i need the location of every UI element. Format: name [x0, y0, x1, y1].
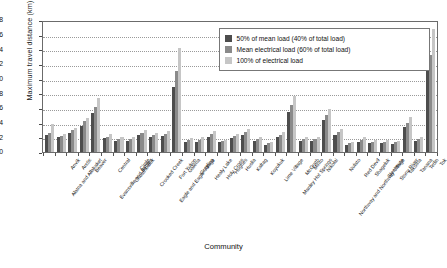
- x-axis-category-label: Evansville and Bettles: [118, 157, 153, 200]
- bar: [74, 128, 77, 152]
- x-axis-category-label: Kaltag: [255, 157, 269, 172]
- x-axis-category-label: Shageluk: [373, 157, 391, 177]
- x-axis-category-label: Red Devil: [362, 157, 380, 178]
- y-axis-tick-label: 16: [0, 32, 3, 39]
- y-axis-tick-mark: [39, 50, 42, 51]
- bar: [155, 133, 158, 152]
- bar: [86, 118, 89, 152]
- bar: [201, 137, 204, 152]
- x-axis-category-label: Huslia: [243, 157, 256, 172]
- legend-swatch-icon: [225, 57, 232, 64]
- bar: [178, 48, 181, 152]
- bar-group: [125, 22, 137, 152]
- y-axis-tick-mark: [39, 138, 42, 139]
- bar: [351, 142, 354, 152]
- bar-group: [148, 22, 160, 152]
- bar: [293, 96, 296, 152]
- x-axis-tick-mark: [310, 153, 311, 156]
- x-axis-tick-mark: [101, 153, 102, 156]
- x-axis-category-label: Koyukuk: [268, 157, 285, 176]
- x-axis-tick-mark: [228, 153, 229, 156]
- bar-group: [79, 22, 91, 152]
- bar: [120, 137, 123, 152]
- x-axis-category-label: Sleetmute: [386, 157, 405, 179]
- x-axis-tick-mark: [55, 153, 56, 156]
- x-axis-tick-mark: [275, 153, 276, 156]
- bar: [432, 29, 435, 152]
- x-axis-tick-mark: [113, 153, 114, 156]
- x-axis-tick-mark: [217, 153, 218, 156]
- bar: [63, 134, 66, 152]
- x-axis-category-label: Stony River: [398, 157, 419, 181]
- x-axis-category-label: Tok: [438, 157, 447, 167]
- y-axis-tick-label: 8: [0, 91, 3, 98]
- bar-group: [182, 22, 194, 152]
- x-axis-tick-mark: [124, 153, 125, 156]
- x-axis-tick-mark: [147, 153, 148, 156]
- x-axis-ticks: [42, 153, 438, 157]
- y-axis-tick-mark: [39, 94, 42, 95]
- bar: [397, 141, 400, 152]
- bar: [305, 137, 308, 152]
- x-axis-tick-mark: [425, 153, 426, 156]
- legend-swatch-icon: [225, 35, 232, 42]
- y-axis-tick-label: 14: [0, 47, 3, 54]
- bar: [420, 137, 423, 152]
- bar-group: [194, 22, 206, 152]
- x-axis-tick-mark: [66, 153, 67, 156]
- legend-item-label: 50% of mean load (40% of total load): [237, 35, 346, 42]
- x-axis-category-label: Manley Hot Springs: [301, 157, 333, 196]
- x-axis-category-label: Hughes: [233, 157, 249, 175]
- x-axis-tick-mark: [182, 153, 183, 156]
- y-axis-tick-mark: [39, 109, 42, 110]
- bar-chart: Maximum travel distance (km) 02468101214…: [0, 0, 447, 268]
- x-axis-category-label: Anvik: [69, 157, 81, 171]
- y-axis-tick-mark: [39, 36, 42, 37]
- bar-group: [90, 22, 102, 152]
- bar: [51, 124, 54, 152]
- x-axis-tick-mark: [437, 153, 438, 156]
- x-axis-category-label: Arctic: [80, 157, 93, 171]
- x-axis-category-label: Nulato: [348, 157, 362, 172]
- bar: [386, 140, 389, 152]
- x-axis-tick-mark: [298, 153, 299, 156]
- bar-group: [159, 22, 171, 152]
- x-axis-tick-mark: [414, 153, 415, 156]
- x-axis-tick-mark: [379, 153, 380, 156]
- bar-group: [136, 22, 148, 152]
- y-axis-tick-label: 2: [0, 135, 3, 142]
- x-axis-tick-mark: [367, 153, 368, 156]
- y-axis-tick-mark: [39, 21, 42, 22]
- y-axis-tick-label: 4: [0, 120, 3, 127]
- bar: [97, 98, 100, 152]
- x-axis-category-label: Eagle and Eagle Village: [177, 157, 215, 203]
- y-axis-tick-mark: [39, 65, 42, 66]
- x-axis-category-label: Northway and Northway Village: [358, 157, 406, 217]
- bar: [374, 140, 377, 152]
- bar-group: [102, 22, 114, 152]
- bar-group: [205, 22, 217, 152]
- y-axis-tick-label: 18: [0, 17, 3, 24]
- x-axis-category-label: Holy Cross: [224, 157, 244, 180]
- legend-item: Mean electrical load (60% of total load): [225, 44, 424, 55]
- y-axis-tick-label: 6: [0, 105, 3, 112]
- legend-item: 50% of mean load (40% of total load): [225, 33, 424, 44]
- bar: [167, 131, 170, 152]
- x-axis-tick-mark: [391, 153, 392, 156]
- x-axis-category-label: Galena: [186, 157, 201, 174]
- x-axis-tick-mark: [263, 153, 264, 156]
- x-axis-category-label: Tetlin: [428, 157, 440, 170]
- x-axis-category-label: Alatna and Allakaket: [70, 157, 103, 197]
- chart-legend: 50% of mean load (40% of total load) Mea…: [219, 28, 430, 71]
- x-axis-category-label: Healy Lake: [213, 157, 233, 181]
- bar: [213, 131, 216, 152]
- x-axis-tick-mark: [240, 153, 241, 156]
- bar: [259, 137, 262, 152]
- x-axis-tick-mark: [159, 153, 160, 156]
- y-axis-title: Maximum travel distance (km): [25, 0, 34, 126]
- bar-group: [171, 22, 183, 152]
- bar: [270, 142, 273, 152]
- legend-item-label: Mean electrical load (60% of total load): [237, 46, 351, 53]
- x-axis-tick-mark: [136, 153, 137, 156]
- x-axis-category-label: Beaver: [93, 157, 108, 173]
